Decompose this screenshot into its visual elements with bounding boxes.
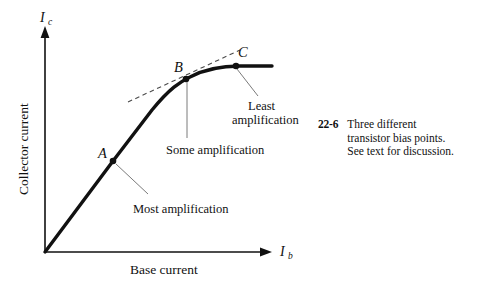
- y-axis-symbol: I: [39, 10, 46, 25]
- point-label-a: A: [97, 145, 107, 161]
- figure-caption-line-2: transistor bias points.: [347, 132, 454, 146]
- figure-page: I c I b Collector current Base current A…: [0, 0, 502, 288]
- point-label-b: B: [174, 59, 183, 75]
- y-axis-title: Collector current: [16, 103, 31, 195]
- x-axis-title: Base current: [130, 262, 198, 277]
- transfer-characteristic-curve: [45, 66, 272, 252]
- x-axis-arrowhead: [260, 248, 272, 257]
- tangent-line-dashed: [128, 50, 240, 102]
- callout-some-amplification: Some amplification: [166, 143, 265, 157]
- x-axis-symbol-subscript: b: [288, 251, 293, 261]
- figure-caption-text: Three different transistor bias points. …: [347, 118, 454, 159]
- callout-least-amplification-line1: Least: [248, 99, 276, 113]
- leader-line-a: [116, 164, 148, 194]
- y-axis-arrowhead: [41, 26, 50, 38]
- point-marker-a: [110, 158, 117, 165]
- y-axis-symbol-subscript: c: [48, 17, 53, 27]
- point-marker-c: [233, 63, 240, 70]
- figure-caption: 22-6 Three different transistor bias poi…: [318, 118, 498, 159]
- callout-least-amplification-line2: amplification: [232, 113, 299, 127]
- point-label-c: C: [238, 44, 248, 60]
- figure-caption-line-1: Three different: [347, 118, 454, 132]
- callout-most-amplification: Most amplification: [133, 202, 229, 216]
- leader-line-c: [237, 69, 258, 96]
- x-axis-symbol: I: [279, 244, 286, 259]
- figure-caption-number: 22-6: [318, 118, 338, 132]
- point-marker-b: [183, 76, 190, 83]
- figure-caption-line-3: See text for discussion.: [347, 145, 454, 159]
